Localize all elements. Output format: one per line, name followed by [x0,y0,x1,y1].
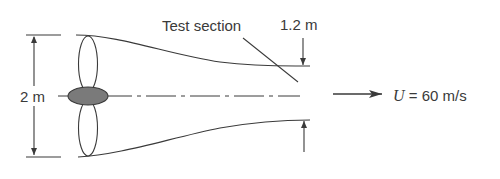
test-section-label: Test section [162,17,241,34]
inlet-diameter-label: 2 m [20,88,45,105]
test-section-dimension: 1.2 m [280,16,318,152]
contraction-bottom-wall [78,120,310,157]
propeller-top-blade [79,36,98,92]
test-section-leader-line [243,38,298,82]
inlet-dimension: 2 m [14,35,61,157]
propeller-hub [68,87,108,105]
propeller-bottom-blade [79,100,98,156]
velocity-value: = 60 m/s [405,87,467,104]
test-section-diameter-label: 1.2 m [280,16,318,33]
velocity-label: U = 60 m/s [393,87,467,104]
contraction-top-wall [76,35,310,66]
diagram-canvas: 2 m Test section 1.2 m U = 60 m/s [0,0,500,179]
fan-propeller [68,36,108,156]
wind-tunnel-diagram: 2 m Test section 1.2 m U = 60 m/s [0,0,500,179]
